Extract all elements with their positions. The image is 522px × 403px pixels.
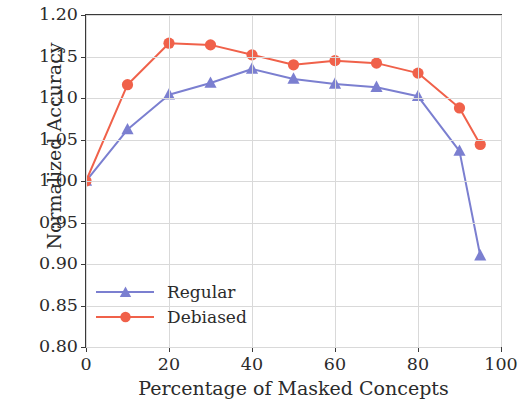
gridline-horizontal xyxy=(86,264,501,265)
y-tick-label: 0.80 xyxy=(0,336,78,356)
x-tick-label: 100 xyxy=(471,354,522,374)
series-regular xyxy=(86,62,486,260)
x-tick-mark xyxy=(252,348,253,352)
x-tick-mark xyxy=(501,348,502,352)
legend-swatch-regular xyxy=(96,283,154,301)
gridline-horizontal xyxy=(86,347,501,348)
data-point-circle xyxy=(454,102,465,113)
x-tick-mark xyxy=(169,348,170,352)
gridline-horizontal xyxy=(86,140,501,141)
legend-label-debiased: Debiased xyxy=(167,307,247,327)
y-tick-label: 1.05 xyxy=(0,129,78,149)
legend: Regular Debiased xyxy=(96,279,247,329)
x-tick-label: 20 xyxy=(139,354,199,374)
gridline-horizontal xyxy=(86,223,501,224)
data-point-circle xyxy=(475,139,486,150)
gridline-vertical xyxy=(501,15,502,347)
gridline-vertical xyxy=(86,15,87,347)
y-tick-label: 0.85 xyxy=(0,295,78,315)
x-tick-label: 0 xyxy=(56,354,116,374)
data-point-circle xyxy=(288,59,299,70)
series-debiased xyxy=(86,38,486,187)
data-point-circle xyxy=(205,39,216,50)
triangle-marker-icon xyxy=(119,286,132,298)
data-point-circle xyxy=(122,79,133,90)
gridline-horizontal xyxy=(86,98,501,99)
x-tick-mark xyxy=(335,348,336,352)
gridline-horizontal xyxy=(86,181,501,182)
gridline-vertical xyxy=(252,15,253,347)
x-tick-label: 60 xyxy=(305,354,365,374)
y-tick-label: 0.95 xyxy=(0,212,78,232)
gridline-horizontal xyxy=(86,15,501,16)
x-axis-label: Percentage of Masked Concepts xyxy=(85,377,502,399)
data-point-circle xyxy=(371,58,382,69)
gridline-vertical xyxy=(418,15,419,347)
y-tick-label: 0.90 xyxy=(0,253,78,273)
y-tick-label: 1.20 xyxy=(0,4,78,24)
gridline-horizontal xyxy=(86,57,501,58)
legend-entry-debiased[interactable]: Debiased xyxy=(96,304,247,329)
y-tick-label: 1.00 xyxy=(0,170,78,190)
data-point-triangle xyxy=(121,123,133,134)
legend-label-regular: Regular xyxy=(167,282,235,302)
gridline-vertical xyxy=(335,15,336,347)
x-tick-label: 40 xyxy=(222,354,282,374)
legend-swatch-debiased xyxy=(96,308,154,326)
x-tick-mark xyxy=(86,348,87,352)
circle-marker-icon xyxy=(119,311,132,323)
data-point-triangle xyxy=(474,249,486,260)
x-tick-label: 80 xyxy=(388,354,448,374)
x-tick-mark xyxy=(418,348,419,352)
series-line xyxy=(86,43,480,181)
y-tick-label: 1.15 xyxy=(0,46,78,66)
legend-entry-regular[interactable]: Regular xyxy=(96,279,247,304)
y-tick-label: 1.10 xyxy=(0,87,78,107)
